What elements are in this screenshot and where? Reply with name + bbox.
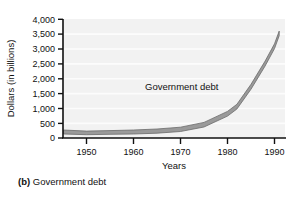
y-tick-label: 3,500	[32, 29, 55, 39]
x-axis-ticks	[87, 138, 275, 144]
figure-caption-text: Government debt	[33, 176, 106, 187]
series-annotation-label: Government debt	[145, 81, 219, 92]
y-tick-label: 1,000	[32, 104, 55, 114]
x-tick-label: 1980	[217, 147, 237, 157]
x-axis-title: Years	[162, 160, 186, 171]
y-axis-title: Dollars (in billions)	[5, 40, 16, 118]
right-mask	[286, 0, 305, 200]
y-tick-label: 0	[50, 133, 55, 143]
x-axis-tick-labels: 1950 1960 1970 1980 1990	[76, 147, 284, 157]
x-tick-label: 1990	[264, 147, 284, 157]
y-axis-tick-labels: 4,000 3,500 3,000 2,500 2,000 1,500 1,00…	[32, 15, 55, 144]
government-debt-line-chart: 4,000 3,500 3,000 2,500 2,000 1,500 1,00…	[0, 0, 305, 200]
figure-caption: (b) Government debt	[18, 176, 106, 187]
y-tick-label: 1,500	[32, 89, 55, 99]
y-tick-label: 2,000	[32, 74, 55, 84]
y-tick-label: 2,500	[32, 59, 55, 69]
y-tick-label: 3,000	[32, 44, 55, 54]
x-tick-label: 1970	[170, 147, 190, 157]
figure-government-debt: 4,000 3,500 3,000 2,500 2,000 1,500 1,00…	[0, 0, 305, 200]
x-tick-label: 1960	[123, 147, 143, 157]
y-tick-label: 500	[40, 119, 55, 129]
x-tick-label: 1950	[76, 147, 96, 157]
figure-caption-tag: (b)	[18, 176, 30, 187]
y-tick-label: 4,000	[32, 15, 55, 25]
